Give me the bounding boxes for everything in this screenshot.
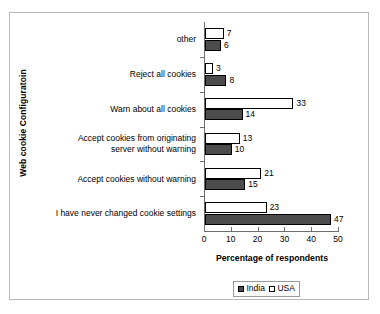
plot-area: 0102030405076383314131021152347	[204, 22, 338, 231]
bar-value-label-india: 15	[248, 179, 257, 190]
x-axis-line	[204, 231, 339, 232]
bar-india	[205, 144, 232, 155]
bar-value-label-india: 10	[235, 144, 244, 155]
bar-value-label-usa: 13	[243, 133, 252, 144]
y-axis-line	[204, 22, 205, 231]
legend-entry-india: India	[238, 283, 265, 294]
bar-value-label-india: 6	[224, 40, 229, 51]
bar-usa	[205, 28, 224, 39]
x-axis-tick	[311, 227, 312, 232]
y-axis-tick	[200, 127, 204, 128]
x-axis-tick-label: 40	[296, 234, 326, 244]
category-label: other	[177, 34, 196, 45]
bar-usa	[205, 63, 213, 74]
bar-usa	[205, 133, 240, 144]
bar-value-label-usa: 21	[264, 168, 273, 179]
x-axis-tick-label: 0	[189, 234, 219, 244]
y-axis-tick	[200, 92, 204, 93]
bar-india	[205, 75, 226, 86]
bar-value-label-usa: 3	[216, 63, 221, 74]
chart-figure: Web cookie Configuratoin otherReject all…	[0, 0, 380, 314]
category-label: Warn about all cookies	[110, 104, 196, 115]
x-axis-tick	[258, 227, 259, 232]
category-label: Reject all cookies	[130, 69, 196, 80]
category-label: I have never changed cookie settings	[56, 208, 196, 219]
category-labels: otherReject all cookiesWarn about all co…	[0, 22, 200, 231]
bar-usa	[205, 168, 261, 179]
bar-india	[205, 109, 243, 120]
x-axis-title: Percentage of respondents	[204, 253, 340, 263]
x-axis-tick	[231, 227, 232, 232]
y-axis-tick	[200, 161, 204, 162]
bar-india	[205, 40, 221, 51]
y-axis-tick	[200, 196, 204, 197]
bar-value-label-india: 47	[334, 214, 343, 225]
bar-value-label-india: 8	[229, 75, 234, 86]
bar-india	[205, 214, 331, 225]
x-axis-tick-label: 20	[243, 234, 273, 244]
x-axis-tick	[338, 227, 339, 232]
legend-swatch-usa	[269, 286, 275, 292]
bar-value-label-usa: 33	[296, 98, 305, 109]
bar-usa	[205, 202, 267, 213]
x-axis-tick-label: 10	[216, 234, 246, 244]
x-axis-tick-label: 30	[269, 234, 299, 244]
category-label-line: other	[177, 34, 196, 45]
category-label-line: Reject all cookies	[130, 69, 196, 80]
bar-value-label-usa: 23	[270, 202, 279, 213]
bar-india	[205, 179, 245, 190]
category-label-line: Warn about all cookies	[110, 104, 196, 115]
bar-usa	[205, 98, 293, 109]
y-axis-tick	[200, 57, 204, 58]
category-label: Accept cookies from originatingserver wi…	[78, 133, 196, 154]
bar-value-label-india: 14	[246, 109, 255, 120]
category-label-line: I have never changed cookie settings	[56, 208, 196, 219]
chart-legend: India USA	[233, 281, 300, 297]
legend-entry-usa: USA	[269, 283, 295, 294]
category-label-line: Accept cookies without warning	[77, 174, 196, 185]
legend-label-usa: USA	[277, 283, 294, 294]
legend-label-india: India	[247, 283, 265, 294]
category-label-line: server without warning	[78, 144, 196, 155]
category-label-line: Accept cookies from originating	[78, 133, 196, 144]
legend-swatch-india	[238, 286, 244, 292]
x-axis-tick-label: 50	[323, 234, 353, 244]
x-axis-tick	[284, 227, 285, 232]
bar-value-label-usa: 7	[227, 28, 232, 39]
category-label: Accept cookies without warning	[77, 174, 196, 185]
x-axis-tick	[204, 227, 205, 232]
